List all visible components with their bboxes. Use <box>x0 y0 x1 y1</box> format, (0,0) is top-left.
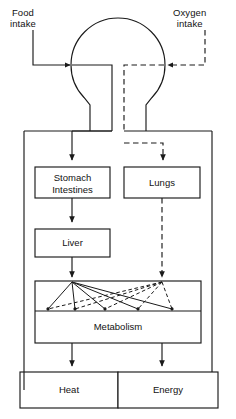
stomach-intestines-label: Stomach Intestines <box>35 172 110 195</box>
lungs-label: Lungs <box>124 177 200 189</box>
lung-feed-arrow <box>124 143 163 160</box>
circle-septum <box>72 65 112 131</box>
energy-flow-diagram <box>0 0 236 419</box>
food-intake-label: Food intake <box>10 7 36 29</box>
heat-label: Heat <box>20 384 118 396</box>
body-circle <box>71 18 165 131</box>
oxygen-intake-path <box>168 30 205 65</box>
liver-label: Liver <box>35 237 110 249</box>
metabolism-label: Metabolism <box>35 321 201 333</box>
food-intake-path <box>33 30 70 65</box>
gut-feed-arrow <box>72 131 112 160</box>
metabolism-box <box>35 281 201 343</box>
energy-label: Energy <box>118 384 218 396</box>
oxygen-intake-label: Oxygen intake <box>173 7 206 29</box>
circle-septum-dashed <box>124 65 164 131</box>
